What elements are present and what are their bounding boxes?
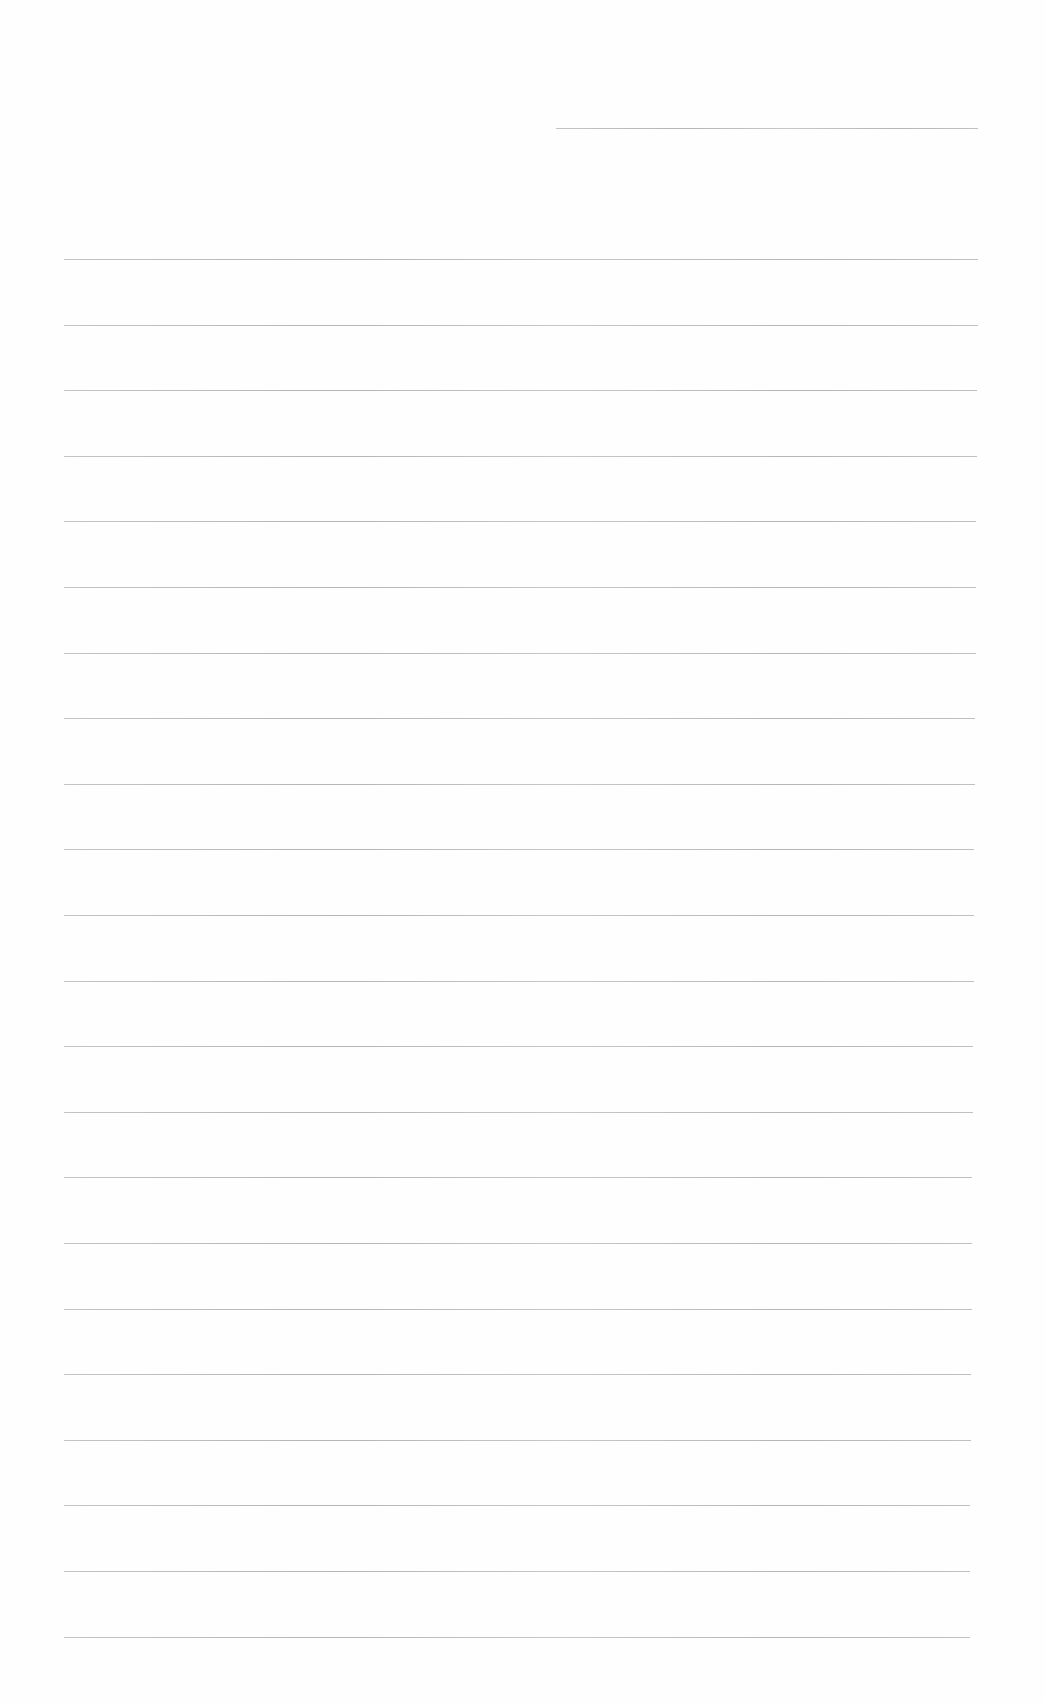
ruled-line bbox=[64, 456, 977, 457]
ruled-line bbox=[64, 259, 978, 260]
ruled-line bbox=[64, 784, 975, 785]
ruled-line bbox=[64, 1177, 972, 1178]
ruled-line bbox=[64, 1112, 973, 1113]
ruled-line bbox=[64, 1637, 970, 1638]
ruled-page bbox=[0, 0, 1046, 1703]
ruled-line bbox=[64, 981, 974, 982]
ruled-line bbox=[64, 521, 976, 522]
ruled-line bbox=[64, 849, 974, 850]
header-line bbox=[556, 128, 978, 129]
ruled-line bbox=[64, 325, 978, 326]
ruled-line bbox=[64, 1440, 971, 1441]
ruled-line bbox=[64, 1505, 970, 1506]
ruled-line bbox=[64, 1046, 973, 1047]
ruled-line bbox=[64, 653, 976, 654]
ruled-line bbox=[64, 587, 976, 588]
ruled-line bbox=[64, 390, 977, 391]
ruled-line bbox=[64, 1243, 972, 1244]
ruled-line bbox=[64, 915, 974, 916]
ruled-line bbox=[64, 1309, 972, 1310]
ruled-line bbox=[64, 1571, 970, 1572]
ruled-line bbox=[64, 718, 975, 719]
ruled-line bbox=[64, 1374, 971, 1375]
